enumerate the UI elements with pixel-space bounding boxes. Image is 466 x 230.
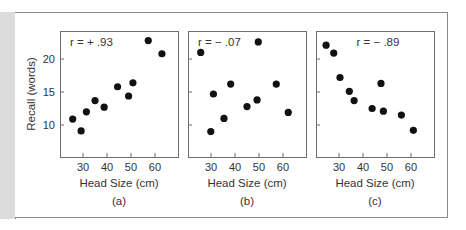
- data-point: [380, 108, 387, 115]
- data-point: [410, 127, 417, 134]
- y-tick-label: 20: [43, 53, 55, 65]
- x-tick-label: 50: [381, 161, 393, 173]
- correlation-label: r = − .89: [357, 36, 400, 48]
- data-point: [78, 127, 85, 134]
- data-point: [227, 81, 234, 88]
- x-tick-label: 60: [149, 161, 161, 173]
- x-tick-label: 50: [125, 161, 137, 173]
- x-tick-label: 30: [77, 161, 89, 173]
- data-point: [91, 97, 98, 104]
- data-point: [145, 37, 152, 44]
- data-point: [197, 49, 204, 56]
- data-point: [330, 49, 337, 56]
- data-point: [377, 80, 384, 87]
- data-point: [114, 83, 121, 90]
- x-axis-title: Head Size (cm): [79, 177, 158, 189]
- data-point: [398, 112, 405, 119]
- data-point: [369, 105, 376, 112]
- data-point: [158, 50, 165, 57]
- data-point: [273, 81, 280, 88]
- data-point: [101, 104, 108, 111]
- x-tick-label: 60: [405, 161, 417, 173]
- panel-label: (c): [368, 195, 382, 207]
- panel-b: 30405060r = − .07Head Size (cm)(b): [188, 32, 307, 208]
- y-tick-label: 10: [43, 119, 55, 131]
- panel-a: 30405060101520r = + .93Head Size (cm)(a): [43, 32, 179, 208]
- data-point: [322, 42, 329, 49]
- x-tick-label: 40: [101, 161, 113, 173]
- data-point: [83, 108, 90, 115]
- data-point: [220, 115, 227, 122]
- plot-area: [189, 32, 307, 158]
- y-tick-label: 15: [43, 86, 55, 98]
- panel-label: (b): [240, 195, 254, 207]
- correlation-label: r = + .93: [70, 36, 113, 48]
- scatter-figure: Recall (words) 30405060101520r = + .93He…: [0, 0, 466, 230]
- x-tick-label: 40: [357, 161, 369, 173]
- x-tick-label: 50: [253, 161, 265, 173]
- panel-label: (a): [112, 195, 126, 207]
- y-axis-title: Recall (words): [25, 57, 37, 131]
- x-tick-label: 30: [205, 161, 217, 173]
- x-tick-label: 40: [229, 161, 241, 173]
- x-axis-title: Head Size (cm): [335, 177, 414, 189]
- data-point: [285, 109, 292, 116]
- data-point: [69, 115, 76, 122]
- data-point: [336, 74, 343, 81]
- x-tick-label: 60: [277, 161, 289, 173]
- data-point: [243, 103, 250, 110]
- data-point: [210, 90, 217, 97]
- data-point: [253, 96, 260, 103]
- data-point: [255, 38, 262, 45]
- data-point: [129, 79, 136, 86]
- panel-c: 30405060r = − .89Head Size (cm)(c): [316, 32, 435, 208]
- x-tick-label: 30: [333, 161, 345, 173]
- data-point: [346, 88, 353, 95]
- data-point: [351, 97, 358, 104]
- correlation-label: r = − .07: [198, 36, 241, 48]
- x-axis-title: Head Size (cm): [207, 177, 286, 189]
- data-point: [207, 128, 214, 135]
- data-point: [125, 92, 132, 99]
